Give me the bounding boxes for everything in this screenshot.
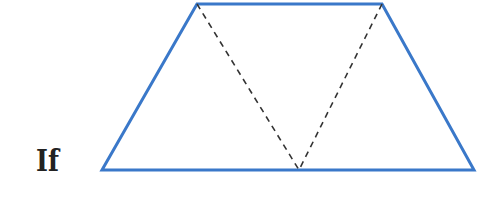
dashed-line-left [197,4,299,170]
trapezoid-diagram [0,0,480,197]
trapezoid-outline [102,4,474,170]
dashed-line-right [299,4,382,170]
